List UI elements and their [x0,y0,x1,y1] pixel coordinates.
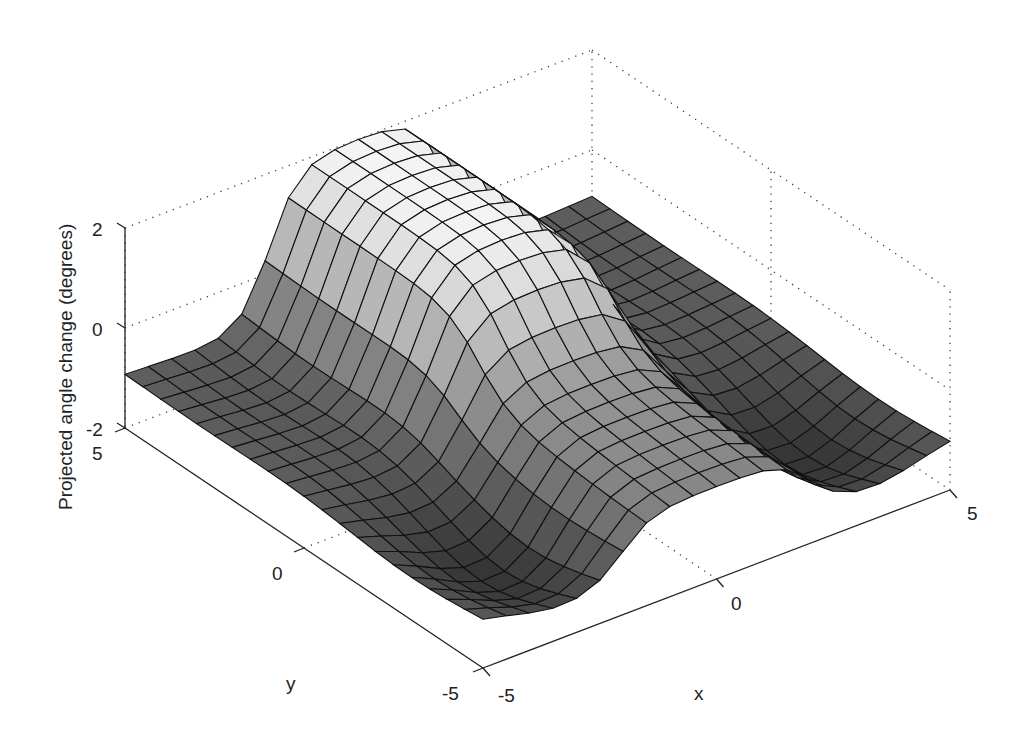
surface-mesh [125,129,950,619]
x-tick-label-0: 0 [731,593,742,614]
surface-plot: 2 0 -2 5 0 -5 -5 0 5 y x Projected angle… [0,0,1030,751]
y-tick-label-neg5: -5 [442,683,459,704]
x-tick-label-5: 5 [967,503,978,524]
z-tick-label-0: 0 [92,319,103,340]
y-axis-label: y [286,673,296,694]
x-tick-label-neg5: -5 [498,685,515,706]
z-tick-label-2: 2 [92,219,103,240]
y-tick-label-0: 0 [272,563,283,584]
z-axis-label: Projected angle change (degrees) [55,224,76,510]
x-axis-label: x [694,683,704,704]
z-tick-label-neg2: -2 [86,419,103,440]
y-tick-label-5: 5 [92,443,103,464]
